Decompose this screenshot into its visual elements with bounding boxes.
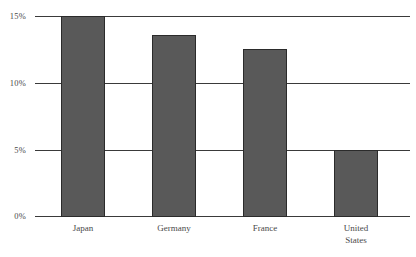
ytick-label-0: 0% (0, 212, 26, 221)
bars-layer (35, 16, 410, 217)
x-label-france: France (223, 222, 307, 234)
x-label-france-line-1: France (223, 222, 307, 234)
bar-france[interactable] (243, 49, 287, 217)
ytick-label-5: 5% (0, 146, 26, 155)
x-axis-labels: Japan Germany France United States (35, 222, 410, 257)
x-label-germany: Germany (132, 222, 216, 234)
x-label-japan: Japan (41, 222, 125, 234)
x-label-united-states: United States (314, 222, 398, 246)
bar-germany[interactable] (152, 35, 196, 217)
x-label-united-states-line-1: United (314, 222, 398, 234)
bar-chart: 15% 10% 5% 0% Japan Germany France Unite… (0, 0, 416, 257)
bar-united-states[interactable] (334, 150, 378, 217)
x-label-japan-line-1: Japan (41, 222, 125, 234)
bar-japan[interactable] (61, 16, 105, 217)
plot-area: 15% 10% 5% 0% (35, 16, 410, 217)
ytick-label-10: 10% (0, 79, 26, 88)
x-label-united-states-line-2: States (314, 234, 398, 246)
ytick-label-15: 15% (0, 12, 26, 21)
x-label-germany-line-1: Germany (132, 222, 216, 234)
